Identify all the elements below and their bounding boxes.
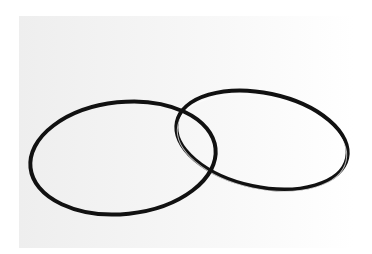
rings-photo xyxy=(0,0,372,254)
photo-backdrop xyxy=(19,16,354,248)
photo: Two thin black rubber rings overlapping … xyxy=(0,0,372,254)
